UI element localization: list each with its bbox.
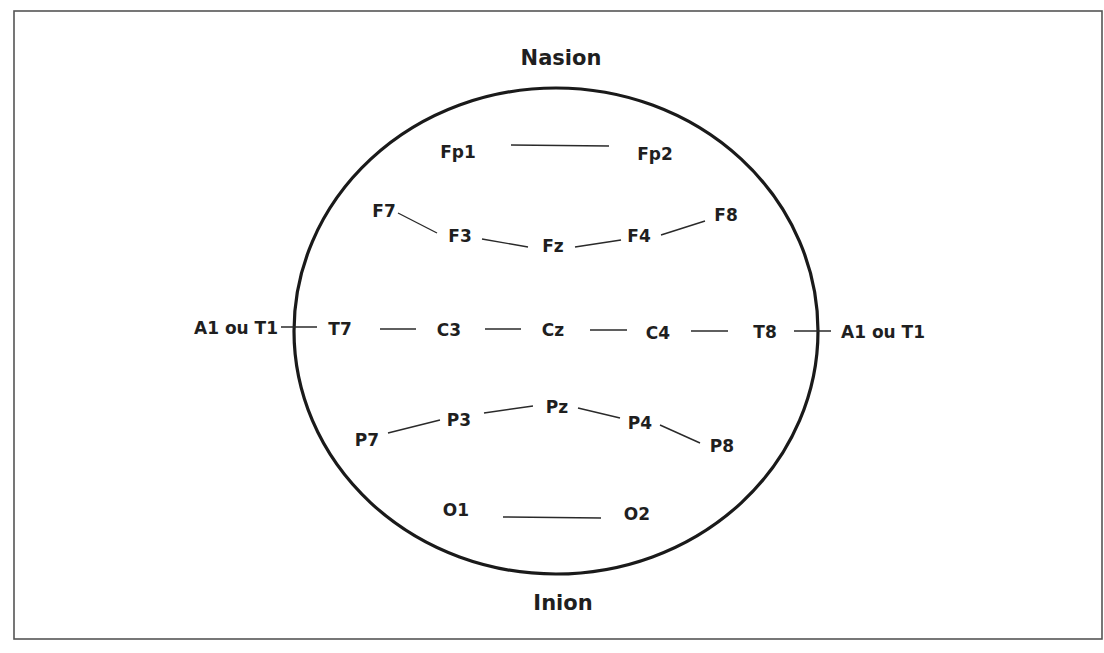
electrode-t8: T8 [753, 322, 776, 342]
electrode-labels: Fp1 Fp2 F7 F3 Fz F4 F8 T7 C3 Cz C4 T8 P7… [328, 142, 776, 524]
ear-reference-right-label: A1 ou T1 [841, 322, 925, 342]
inion-label: Inion [533, 591, 592, 615]
electrode-fp1: Fp1 [440, 142, 476, 162]
electrode-fp2: Fp2 [637, 144, 673, 164]
electrode-o2: O2 [624, 504, 650, 524]
electrode-pz: Pz [546, 397, 568, 417]
electrode-fz: Fz [542, 236, 564, 256]
electrode-p8: P8 [710, 436, 734, 456]
electrode-f4: F4 [627, 226, 651, 246]
line-fp1-fp2 [511, 145, 609, 146]
line-p4-p8 [660, 425, 700, 443]
line-p7-p3 [388, 420, 440, 433]
line-f3-fz [482, 239, 528, 247]
electrode-c3: C3 [437, 320, 461, 340]
electrode-p3: P3 [447, 410, 471, 430]
line-f7-f3 [398, 213, 437, 233]
nasion-label: Nasion [521, 46, 602, 70]
electrode-o1: O1 [443, 500, 469, 520]
electrode-c4: C4 [646, 323, 670, 343]
line-f4-f8 [661, 221, 705, 235]
electrode-t7: T7 [328, 319, 351, 339]
line-o1-o2 [503, 517, 601, 518]
electrode-p7: P7 [355, 430, 379, 450]
line-fz-f4 [575, 240, 621, 247]
electrode-f8: F8 [714, 205, 737, 225]
ear-reference-left-label: A1 ou T1 [194, 318, 278, 338]
line-pz-p4 [578, 408, 620, 418]
line-p3-pz [484, 406, 533, 413]
electrode-f3: F3 [448, 226, 471, 246]
electrode-p4: P4 [628, 413, 652, 433]
electrode-cz: Cz [542, 320, 564, 340]
eeg-electrode-diagram: Nasion Inion A1 ou T1 A1 ou T1 Fp1 Fp2 F… [0, 0, 1104, 653]
electrode-f7: F7 [372, 201, 395, 221]
